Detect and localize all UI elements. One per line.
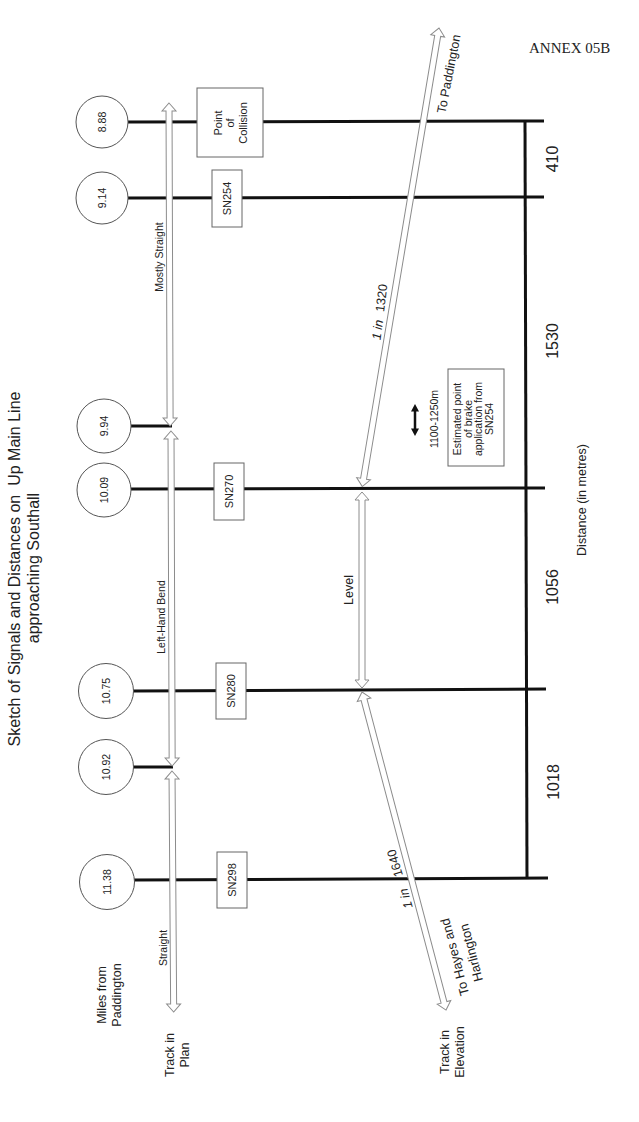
- signal-distance-sketch: ANNEX 05B Sketch of Signals and Distance…: [0, 0, 639, 1122]
- level-label: Level: [342, 575, 356, 605]
- distance-axis-label: Distance (in metres): [575, 444, 589, 556]
- signal-id: SN254: [221, 182, 233, 216]
- diagram-title: Sketch of Signals and Distances on Up Ma…: [6, 391, 42, 746]
- row-labels: Miles fromPaddington Track inPlan Track …: [95, 963, 467, 1077]
- signal-line-11-38: [134, 878, 548, 880]
- milepost-value: 11.38: [101, 869, 113, 895]
- double-arrow-icon: [355, 690, 453, 1012]
- signal-lines: [128, 120, 548, 880]
- distance-segment-value: 410: [544, 146, 561, 173]
- signal-id: SN298: [226, 863, 238, 897]
- signal-id: SN270: [223, 475, 235, 509]
- plan-segment-label: Mostly Straight: [153, 222, 165, 292]
- plan-segment-label: Left-Hand Bend: [155, 580, 167, 654]
- signal-line-8-88: [128, 121, 544, 122]
- signal-id: SN280: [225, 674, 237, 708]
- title-line-1: Sketch of Signals and Distances on Up Ma…: [6, 391, 23, 746]
- milepost-value: 10.75: [100, 678, 112, 704]
- double-arrow-icon: [165, 771, 181, 1012]
- track-in-plan-label: Track inPlan: [163, 1033, 192, 1077]
- milepost-value: 10.09: [98, 477, 110, 503]
- track-elevation: 1 in1320 Level 1 in1640 To Paddington To…: [342, 27, 488, 1012]
- distance-axis-line: [525, 120, 527, 879]
- distance-segment-value: 1530: [544, 323, 561, 359]
- milepost-value: 9.14: [96, 188, 108, 209]
- track-in-elevation-label: Track inElevation: [438, 1026, 467, 1077]
- milepost-value: 9.94: [98, 416, 110, 437]
- signal-line-10-09: [131, 488, 545, 489]
- milepost-markers: 8.88 9.14 9.94 10.09 10.75 10.92 11.38: [76, 96, 135, 910]
- double-headed-arrow-icon: [411, 404, 419, 436]
- distance-scale: 410 1530 1056 1018 Distance (in metres): [544, 146, 590, 800]
- milepost-value: 10.92: [100, 754, 112, 780]
- milepost-value: 8.88: [96, 112, 108, 133]
- annex-label: ANNEX 05B: [529, 40, 610, 56]
- signal-line-9-14: [128, 197, 544, 198]
- direction-to-hayes-and-harlington: To Hayes andHarlington: [437, 912, 488, 997]
- signal-line-10-75: [133, 689, 546, 691]
- miles-from-paddington-label: Miles fromPaddington: [95, 963, 124, 1026]
- plan-segment-label: Straight: [157, 930, 169, 966]
- double-arrow-icon: [355, 492, 369, 688]
- signal-boxes: PointofCollision SN254 SN270 SN280 SN298: [197, 88, 263, 908]
- distance-segment-value: 1018: [545, 764, 562, 800]
- distance-segment-value: 1056: [544, 569, 561, 605]
- brake-estimate: 1100-1250m Estimated pointof brakeapplic…: [411, 369, 504, 466]
- title-line-2: approaching Southall: [25, 493, 42, 643]
- brake-range-label: 1100-1250m: [428, 390, 440, 448]
- track-plan: Mostly Straight Left-Hand Bend Straight: [153, 103, 181, 1012]
